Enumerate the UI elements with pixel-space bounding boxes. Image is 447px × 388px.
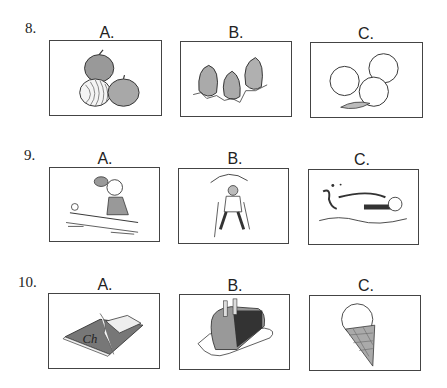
option-9c-swimming-picture[interactable] <box>308 169 419 245</box>
option-8b-strawberries-picture[interactable] <box>180 41 292 117</box>
chocolate-icon: Ch <box>49 294 159 368</box>
option-label-9a: A. <box>85 150 125 168</box>
option-label-10b: B. <box>215 277 255 295</box>
option-9a-table-tennis-picture[interactable] <box>49 167 160 242</box>
onion-icon <box>50 41 161 115</box>
option-8c-peaches-picture[interactable] <box>310 42 423 118</box>
ice-cream-icon <box>310 296 420 370</box>
option-10c-ice-cream-picture[interactable] <box>309 295 421 371</box>
option-10a-chocolate-picture[interactable]: Ch <box>48 293 160 369</box>
hiking-icon <box>179 169 288 243</box>
svg-text:Ch: Ch <box>83 332 98 346</box>
option-label-8c: C. <box>346 25 386 43</box>
option-10b-cake-picture[interactable] <box>179 294 290 370</box>
option-label-10c: C. <box>346 277 386 295</box>
question-number-9: 9. <box>24 147 35 164</box>
option-label-10a: A. <box>85 276 125 294</box>
option-8a-onions-picture[interactable] <box>49 40 162 116</box>
option-label-8b: B. <box>216 24 256 42</box>
peach-icon <box>311 43 422 117</box>
option-label-9c: C. <box>342 151 382 169</box>
option-9b-hiking-picture[interactable] <box>178 168 289 244</box>
question-number-8: 8. <box>25 20 36 37</box>
cake-icon <box>180 295 289 369</box>
swimming-icon <box>309 170 418 244</box>
option-label-9b: B. <box>215 150 255 168</box>
question-number-10: 10. <box>18 274 37 291</box>
table-tennis-icon <box>50 168 159 241</box>
strawberry-icon <box>181 42 291 116</box>
